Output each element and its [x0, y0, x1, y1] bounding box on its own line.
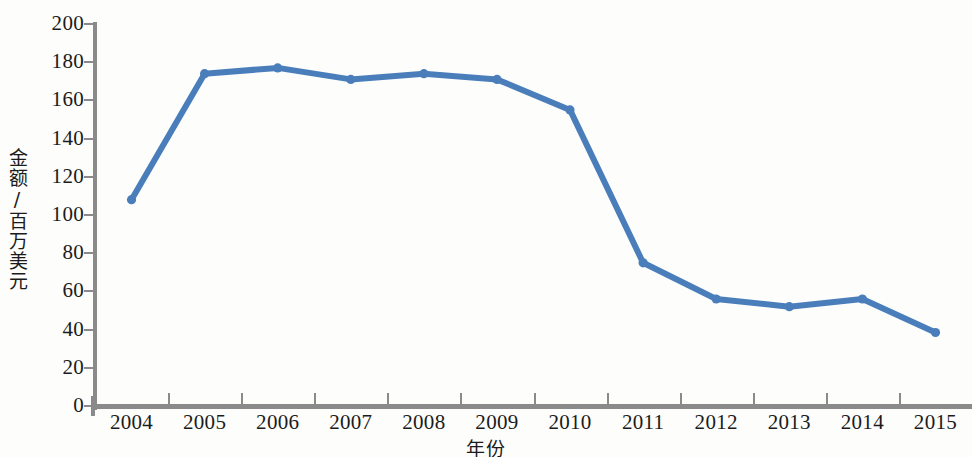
- y-tick-mark: [84, 176, 94, 178]
- y-tick-mark: [84, 214, 94, 216]
- data-point: [346, 75, 355, 84]
- data-point: [931, 328, 940, 337]
- y-tick-mark: [84, 290, 94, 292]
- data-point: [712, 294, 721, 303]
- series-line-amount: [132, 68, 936, 333]
- series-markers-amount: [127, 63, 940, 337]
- y-tick-mark: [84, 252, 94, 254]
- data-point: [127, 195, 136, 204]
- y-tick-mark: [84, 23, 94, 25]
- data-point: [492, 75, 501, 84]
- data-point: [273, 63, 282, 72]
- y-tick-mark: [84, 61, 94, 63]
- y-tick-mark: [84, 138, 94, 140]
- data-point: [858, 294, 867, 303]
- data-point: [565, 105, 574, 114]
- data-point: [419, 69, 428, 78]
- y-tick-mark: [84, 329, 94, 331]
- series-layer: [0, 0, 972, 457]
- y-tick-mark: [84, 405, 94, 407]
- data-point: [639, 258, 648, 267]
- data-point: [785, 302, 794, 311]
- line-chart: 金额/百万美元 020406080100120140160180200 2004…: [0, 0, 972, 457]
- y-tick-mark: [84, 99, 94, 101]
- y-tick-mark: [84, 367, 94, 369]
- data-point: [200, 69, 209, 78]
